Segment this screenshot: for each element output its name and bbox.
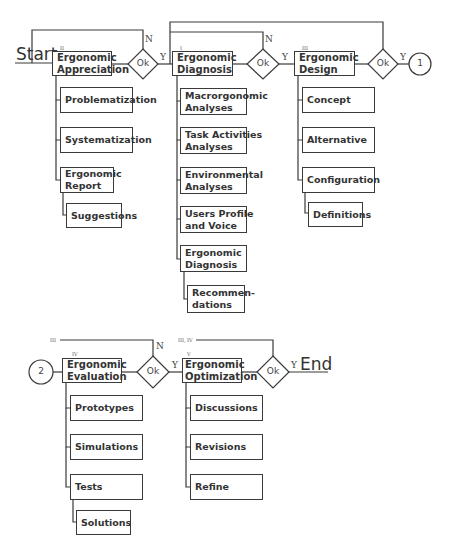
step-label-line2: and Voice xyxy=(185,220,242,232)
end-terminal: End xyxy=(300,354,332,374)
phase-title-line2: Optimization xyxy=(185,371,239,383)
step-label-line1: Environmental xyxy=(185,169,242,181)
step-label-line2: Analyses xyxy=(185,102,242,114)
step-environmental-analyses: Environmental Analyses xyxy=(180,167,247,194)
loop-label-iii: III xyxy=(50,337,56,343)
step-alternative: Alternative xyxy=(302,127,375,153)
phase-box-evaluation: Ergonomic Evaluation xyxy=(62,358,122,383)
connector-lines xyxy=(0,0,458,556)
step-label-line1: Ergonomic xyxy=(65,168,109,180)
phase-title-line1: Ergonomic xyxy=(57,52,107,64)
step-label-line2: Diagnosis xyxy=(185,259,242,271)
step-tests: Tests xyxy=(70,474,143,500)
step-label-line1: Task Activities xyxy=(185,129,242,141)
decision-3-label: Ok xyxy=(368,58,398,68)
step-users-profile-voice: Users Profile and Voice xyxy=(180,206,247,233)
phase-title-line1: Ergonomic xyxy=(185,359,239,371)
phase-roman-iv: IV xyxy=(72,351,78,357)
phase-title-line2: Diagnosis xyxy=(177,64,228,76)
output-solutions: Solutions xyxy=(76,510,131,535)
yes-label-4: Y xyxy=(172,360,178,370)
step-label: Problematization xyxy=(65,94,128,106)
yes-label-2: Y xyxy=(282,52,288,62)
step-label: Alternative xyxy=(307,134,370,146)
decision-5-label: Ok xyxy=(258,366,288,376)
phase-title-line2: Evaluation xyxy=(67,371,117,383)
step-label: Configuration xyxy=(307,174,370,186)
no-label-2: N xyxy=(265,34,273,44)
phase-title-line1: Ergonomic xyxy=(299,52,350,64)
connector-in-2: 2 xyxy=(29,366,53,376)
step-label-line1: Ergonomic xyxy=(185,247,242,259)
yes-label-1: Y xyxy=(160,52,166,62)
loop-label-iii-iv: III, IV xyxy=(178,337,193,343)
step-ergonomic-diagnosis: Ergonomic Diagnosis xyxy=(180,245,247,272)
connector-out-1: 1 xyxy=(408,58,432,68)
step-label-line2: Report xyxy=(65,180,109,192)
output-suggestions: Suggestions xyxy=(66,203,122,228)
step-ergonomic-report: Ergonomic Report xyxy=(60,167,114,193)
phase-box-optimization: Ergonomic Optimization xyxy=(182,358,242,383)
output-label: Definitions xyxy=(313,209,358,221)
no-label-1: N xyxy=(145,34,153,44)
output-label-line1: Recommen- xyxy=(192,287,240,299)
step-task-activities-analyses: Task Activities Analyses xyxy=(180,127,247,154)
phase-box-appreciation: Ergonomic Appreciation xyxy=(52,51,112,76)
step-label: Tests xyxy=(75,481,138,493)
step-label: Revisions xyxy=(195,441,258,453)
step-label: Refine xyxy=(195,481,258,493)
output-label-line2: dations xyxy=(192,299,240,311)
decision-4-label: Ok xyxy=(138,366,168,376)
output-label: Solutions xyxy=(81,517,126,529)
step-discussions: Discussions xyxy=(190,395,263,421)
step-label-line2: Analyses xyxy=(185,141,242,153)
step-label-line1: Users Profile xyxy=(185,208,242,220)
step-label: Discussions xyxy=(195,402,258,414)
phase-title-line1: Ergonomic xyxy=(67,359,117,371)
step-label: Concept xyxy=(307,94,370,106)
step-simulations: Simulations xyxy=(70,434,143,460)
phase-title-line1: Ergonomic xyxy=(177,52,228,64)
step-label: Systematization xyxy=(65,134,128,146)
step-prototypes: Prototypes xyxy=(70,395,143,421)
no-label-4: N xyxy=(156,341,164,351)
decision-1-label: Ok xyxy=(128,58,158,68)
phase-title-line2: Design xyxy=(299,64,350,76)
step-macrorgonomic-analyses: Macrorgonomic Analyses xyxy=(180,88,247,115)
output-definitions: Definitions xyxy=(308,202,363,227)
output-label: Suggestions xyxy=(71,210,117,222)
step-refine: Refine xyxy=(190,474,263,500)
step-configuration: Configuration xyxy=(302,167,375,193)
phase-box-design: Ergonomic Design xyxy=(294,51,355,76)
step-problematization: Problematization xyxy=(60,87,133,113)
step-label-line2: Analyses xyxy=(185,181,242,193)
phase-title-line2: Appreciation xyxy=(57,64,107,76)
step-label-line1: Macrorgonomic xyxy=(185,90,242,102)
step-label: Simulations xyxy=(75,441,138,453)
phase-box-diagnosis: Ergonomic Diagnosis xyxy=(172,51,233,76)
output-recommendations: Recommen- dations xyxy=(187,285,245,313)
phase-roman-v: V xyxy=(187,351,191,357)
step-systematization: Systematization xyxy=(60,127,133,153)
step-label: Prototypes xyxy=(75,402,138,414)
yes-label-3: Y xyxy=(400,52,406,62)
yes-label-5: Y xyxy=(291,360,297,370)
step-revisions: Revisions xyxy=(190,434,263,460)
decision-2-label: Ok xyxy=(248,58,278,68)
step-concept: Concept xyxy=(302,87,375,113)
